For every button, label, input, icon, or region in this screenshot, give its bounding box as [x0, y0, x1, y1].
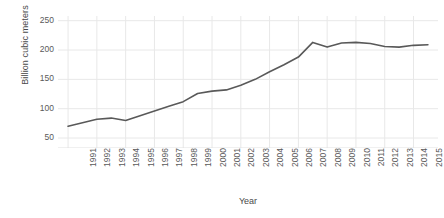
x-tick-label: 1995 [146, 148, 156, 188]
x-tick-label: 2008 [333, 148, 343, 188]
x-tick-label: 2014 [419, 148, 429, 188]
x-tick-label: 1992 [102, 148, 112, 188]
x-axis-title: Year [58, 196, 438, 206]
x-tick-label: 2009 [347, 148, 357, 188]
line-chart: Billion cubic meters 50100150200250 1991… [0, 0, 444, 218]
y-tick-label: 100 [26, 104, 54, 113]
y-tick-label: 200 [26, 45, 54, 54]
y-axis-tick-labels: 50100150200250 [26, 0, 54, 218]
x-tick-label: 1991 [88, 148, 98, 188]
x-tick-label: 2001 [232, 148, 242, 188]
x-tick-label: 1994 [131, 148, 141, 188]
x-tick-label: 2000 [218, 148, 228, 188]
x-tick-label: 2011 [376, 148, 386, 188]
x-tick-label: 2012 [390, 148, 400, 188]
x-tick-label: 2005 [290, 148, 300, 188]
y-tick-label: 50 [26, 133, 54, 142]
x-axis-tick-labels: 1991199219931994199519961997199819992000… [58, 148, 438, 192]
y-tick-label: 250 [26, 16, 54, 25]
x-tick-label: 2010 [362, 148, 372, 188]
x-tick-label: 2013 [405, 148, 415, 188]
x-tick-label: 2015 [434, 148, 444, 188]
x-tick-label: 1997 [174, 148, 184, 188]
x-tick-label: 2003 [261, 148, 271, 188]
x-tick-label: 1999 [203, 148, 213, 188]
x-tick-label: 2007 [318, 148, 328, 188]
plot-area [58, 16, 438, 148]
data-series-line [58, 16, 438, 148]
x-tick-label: 1998 [189, 148, 199, 188]
x-tick-label: 2006 [304, 148, 314, 188]
x-tick-label: 2004 [275, 148, 285, 188]
x-tick-label: 1996 [160, 148, 170, 188]
x-tick-label: 1993 [117, 148, 127, 188]
x-tick-label: 2002 [246, 148, 256, 188]
y-tick-label: 150 [26, 74, 54, 83]
